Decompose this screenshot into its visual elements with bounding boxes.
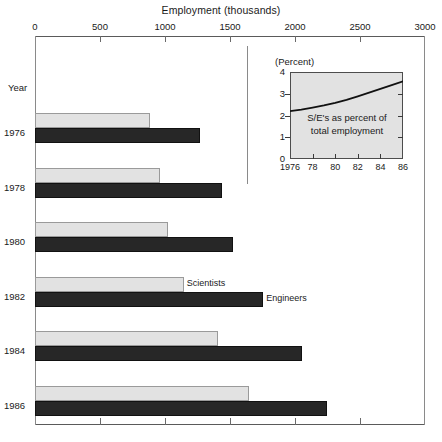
x-axis-tick-mark-bottom xyxy=(230,418,231,425)
annotation-engineers: Engineers xyxy=(266,293,307,303)
bar-scientists xyxy=(35,277,184,292)
inset-y-tick-label: 3 xyxy=(271,88,285,99)
inset-y-tick-label: 4 xyxy=(271,66,285,77)
inset-x-tick-mark xyxy=(358,154,359,159)
x-axis-tick-label: 1500 xyxy=(210,21,250,32)
bar-scientists xyxy=(35,113,150,128)
inset-caption-line2: total employment xyxy=(294,124,400,137)
bar-scientists xyxy=(35,331,218,346)
x-axis-tick-mark xyxy=(165,36,166,42)
chart-root: Employment (thousands) 05001000150020002… xyxy=(0,0,442,442)
bar-scientists xyxy=(35,222,168,237)
bar-engineers xyxy=(35,128,200,143)
x-axis-tick-label: 1000 xyxy=(145,21,185,32)
bar-engineers xyxy=(35,237,233,252)
x-axis-tick-label: 3000 xyxy=(405,21,442,32)
year-row-label: 1978 xyxy=(4,182,33,193)
x-axis-tick-mark xyxy=(360,36,361,42)
year-row-label: 1986 xyxy=(4,400,33,411)
bar-scientists xyxy=(35,168,160,183)
year-axis-label: Year xyxy=(8,82,27,93)
inset-y-tick-mark xyxy=(285,116,290,117)
bar-engineers xyxy=(35,346,302,361)
inset-x-tick-mark xyxy=(380,154,381,159)
inset-x-tick-mark xyxy=(313,154,314,159)
inset-divider xyxy=(247,46,248,184)
bar-engineers xyxy=(35,292,263,307)
year-row-label: 1980 xyxy=(4,236,33,247)
x-axis-tick-label: 0 xyxy=(15,21,55,32)
inset-y-tick-mark xyxy=(398,137,403,138)
bar-engineers xyxy=(35,401,327,416)
x-axis-tick-mark-bottom xyxy=(295,418,296,425)
x-axis-tick-label: 2000 xyxy=(275,21,315,32)
x-axis-tick-label: 2500 xyxy=(340,21,380,32)
inset-caption-line1: S/E's as percent of xyxy=(294,111,400,124)
x-axis-tick-mark xyxy=(295,36,296,42)
x-axis-tick-mark-bottom xyxy=(100,418,101,425)
inset-caption: S/E's as percent of total employment xyxy=(294,111,400,137)
x-axis-tick-mark xyxy=(100,36,101,42)
year-row-label: 1982 xyxy=(4,291,33,302)
x-axis-tick-mark-bottom xyxy=(360,418,361,425)
bar-engineers xyxy=(35,183,222,198)
x-axis-tick-mark xyxy=(230,36,231,42)
year-row-label: 1976 xyxy=(4,127,33,138)
x-axis-tick-label: 500 xyxy=(80,21,120,32)
inset-y-tick-mark xyxy=(285,94,290,95)
inset-y-tick-label: 1 xyxy=(271,131,285,142)
annotation-scientists: Scientists xyxy=(187,278,226,288)
x-axis-tick-mark-bottom xyxy=(165,418,166,425)
inset-x-tick-label: 86 xyxy=(390,162,416,172)
inset-y-tick-mark xyxy=(398,94,403,95)
chart-title: Employment (thousands) xyxy=(0,4,442,16)
year-row-label: 1984 xyxy=(4,345,33,356)
inset-y-tick-mark xyxy=(285,137,290,138)
inset-y-tick-label: 2 xyxy=(271,110,285,121)
inset-x-tick-mark xyxy=(335,154,336,159)
inset-chart: (Percent) 43210 19767880828486 S/E's as … xyxy=(247,46,425,184)
bar-scientists xyxy=(35,386,249,401)
